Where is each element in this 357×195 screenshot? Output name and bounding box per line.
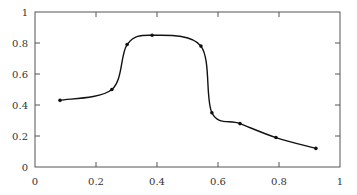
x-tick-label: 1 xyxy=(337,176,343,187)
x-tick-label: 0.6 xyxy=(210,176,226,187)
line-chart: 00.20.40.60.81 00.20.40.60.81 xyxy=(0,0,357,195)
data-line xyxy=(60,35,316,148)
y-tick-label: 1 xyxy=(22,7,28,18)
data-point xyxy=(58,99,62,103)
data-point xyxy=(150,33,154,37)
y-tick-label: 0.4 xyxy=(12,100,28,111)
data-point xyxy=(210,111,214,115)
x-tick-label: 0.2 xyxy=(88,176,104,187)
data-point xyxy=(238,122,242,126)
x-tick-labels: 00.20.40.60.81 xyxy=(32,176,343,187)
y-tick-label: 0.2 xyxy=(12,131,28,142)
data-point xyxy=(314,147,318,151)
data-point xyxy=(274,136,278,140)
data-markers xyxy=(58,33,317,150)
y-tick-labels: 00.20.40.60.81 xyxy=(12,7,28,173)
data-point xyxy=(199,44,203,48)
axes-frame xyxy=(35,12,340,167)
axis-ticks xyxy=(35,12,340,167)
y-tick-label: 0 xyxy=(22,162,28,173)
x-tick-label: 0.4 xyxy=(149,176,165,187)
x-tick-label: 0.8 xyxy=(271,176,287,187)
y-tick-label: 0.8 xyxy=(12,38,28,49)
x-tick-label: 0 xyxy=(32,176,38,187)
data-point xyxy=(110,88,114,92)
data-point xyxy=(125,43,129,47)
y-tick-label: 0.6 xyxy=(12,69,28,80)
